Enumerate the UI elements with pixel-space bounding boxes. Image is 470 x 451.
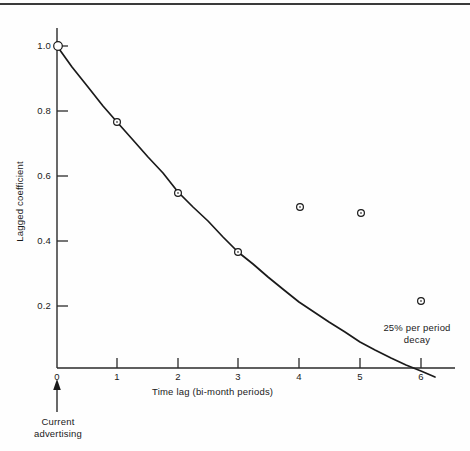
x-tick-label-4: 4 — [288, 371, 310, 382]
x-tick-label-2: 2 — [167, 371, 189, 382]
data-point-markers — [54, 42, 425, 305]
y-tick-label-5: 0.2 — [18, 300, 51, 311]
current-advertising-line1: Current — [41, 416, 74, 427]
x-tick-label-0: 0 — [46, 371, 68, 382]
data-point — [54, 42, 63, 51]
y-axis-title: Lagged coefficient — [14, 147, 25, 257]
decay-curve — [57, 46, 360, 379]
x-tick-label-3: 3 — [227, 371, 249, 382]
x-tick-label-6: 6 — [410, 371, 432, 382]
figure-canvas: 1.0 0.8 0.6 0.4 0.2 0 1 2 3 4 5 6 Lagged… — [0, 0, 470, 451]
chart-plot-area — [0, 0, 470, 451]
decay-curve-line — [57, 46, 435, 348]
current-advertising-annotation: Current advertising — [11, 416, 105, 439]
decay-annotation: 25% per period decay — [369, 322, 465, 345]
y-tick-label-2: 0.8 — [18, 105, 51, 116]
current-advertising-line2: advertising — [34, 428, 82, 439]
x-tick-label-5: 5 — [349, 371, 371, 382]
x-axis-title: Time lag (bi-month periods) — [152, 386, 273, 397]
x-axis-ticks — [117, 358, 421, 368]
x-tick-label-1: 1 — [106, 371, 128, 382]
y-tick-label-1: 1.0 — [18, 40, 51, 51]
decay-annotation-line1: 25% per period — [383, 322, 450, 333]
data-point-centers — [116, 121, 422, 302]
decay-annotation-line2: decay — [404, 334, 430, 345]
y-axis-ticks — [57, 46, 68, 306]
current-advertising-arrow-icon — [53, 379, 61, 412]
